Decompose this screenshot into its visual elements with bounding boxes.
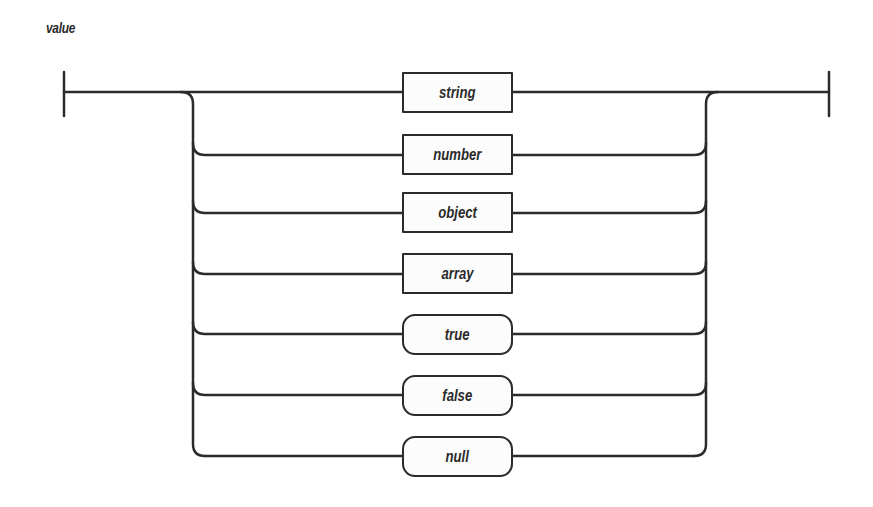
node-null: null (402, 436, 513, 477)
node-label: object (438, 204, 477, 222)
node-label: false (443, 387, 473, 405)
node-label: null (446, 448, 469, 466)
node-label: number (433, 146, 481, 164)
node-string: string (402, 72, 513, 113)
node-label: true (445, 326, 470, 344)
node-false: false (402, 375, 513, 416)
node-label: array (441, 265, 473, 283)
node-label: string (439, 84, 475, 102)
node-object: object (402, 192, 513, 233)
node-array: array (402, 253, 513, 294)
node-number: number (402, 134, 513, 175)
node-true: true (402, 314, 513, 355)
